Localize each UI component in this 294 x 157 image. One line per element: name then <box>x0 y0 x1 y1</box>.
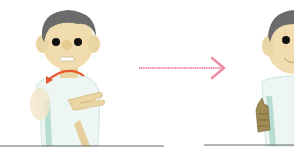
figure-step-1 <box>30 10 105 146</box>
illustration-canvas <box>0 0 294 157</box>
sign-illustration <box>0 0 294 157</box>
figure-step-2 <box>256 10 294 146</box>
transition-arrow-icon <box>139 58 224 78</box>
